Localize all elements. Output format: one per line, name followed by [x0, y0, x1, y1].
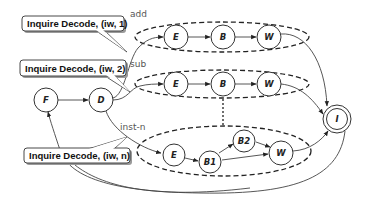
group-label-inst-n: inst-n	[120, 122, 145, 132]
edge-addW-I	[281, 34, 327, 106]
callout-iw-2: Inquire Decode, (iw, 2)	[20, 60, 130, 92]
callout-iw-1: Inquire Decode, (iw, 1)	[22, 16, 127, 52]
callout-text-iw-1: Inquire Decode, (iw, 1)	[27, 18, 127, 29]
node-label-sub-B: B	[220, 79, 226, 89]
node-label-n-B1: B1	[204, 157, 216, 167]
edge-D-subE	[113, 84, 163, 100]
edge-nB2-nW	[256, 142, 270, 147]
node-label-I: I	[335, 114, 338, 124]
callout-text-iw-n: Inquire Decode, (iw, n)	[29, 150, 130, 161]
callout-iw-n: Inquire Decode, (iw, n)	[24, 137, 132, 165]
callout-text-iw-2: Inquire Decode, (iw, 2)	[25, 63, 125, 74]
node-label-D: D	[97, 95, 104, 105]
edge-subW-I	[281, 84, 323, 114]
node-label-add-E: E	[173, 32, 179, 42]
edge-nW-I	[293, 131, 328, 151]
node-label-n-B2: B2	[238, 136, 250, 146]
group-label-add: add	[130, 9, 147, 19]
edge-nB1-nW	[222, 154, 268, 160]
node-label-add-B: B	[220, 32, 226, 42]
node-label-F: F	[43, 95, 49, 105]
edge-nE-nB1	[185, 158, 198, 161]
node-label-sub-W: W	[264, 79, 274, 89]
state-diagram: add sub inst-n F D E B W E B W E B1 B2 W…	[0, 0, 366, 203]
node-label-sub-E: E	[173, 79, 179, 89]
node-label-add-W: W	[264, 32, 274, 42]
node-label-n-W: W	[276, 148, 286, 158]
node-label-n-E: E	[171, 150, 177, 160]
edge-nB1-nB2	[219, 144, 233, 153]
group-label-sub: sub	[130, 59, 146, 69]
